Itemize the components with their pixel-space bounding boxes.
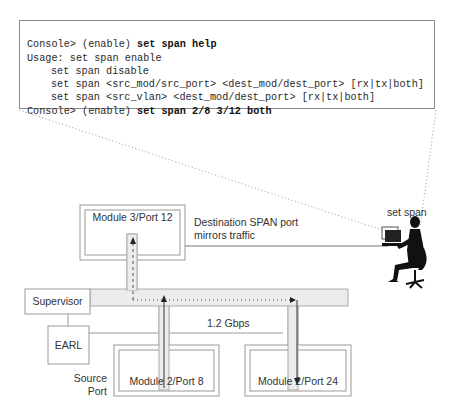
bandwidth-label: 1.2 Gbps [207, 317, 250, 330]
set-span-label: set span [387, 206, 427, 219]
source-port-line2: Port [60, 385, 107, 398]
supervisor-label: Supervisor [25, 295, 90, 308]
dest-note-line1: Destination SPAN port [194, 216, 298, 229]
dest-module-label: Module 3/Port 12 [85, 211, 180, 224]
callout-line-left [19, 110, 385, 231]
dest-note-line2: mirrors traffic [194, 229, 255, 242]
source-module-label: Module 2/Port 8 [119, 375, 214, 388]
earl-label: EARL [48, 339, 89, 352]
source-port-line1: Source [60, 372, 107, 385]
admin-workstation-icon [382, 216, 427, 288]
target-module-label: Module 2/Port 24 [250, 375, 346, 388]
